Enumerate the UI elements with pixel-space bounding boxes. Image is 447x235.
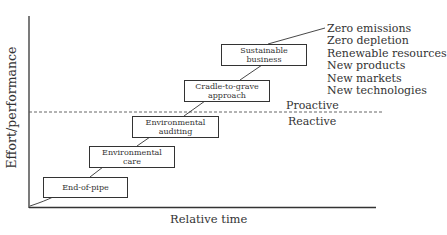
connector-care-auditing bbox=[137, 137, 150, 146]
stage-label: Sustainable business bbox=[239, 46, 289, 65]
reactive-label: Reactive bbox=[288, 115, 336, 128]
outcome-item: New products bbox=[327, 60, 447, 72]
stage-label: End-of-pipe bbox=[62, 183, 109, 193]
connector-endofpipe-care bbox=[90, 167, 103, 177]
proactive-label: Proactive bbox=[286, 99, 339, 112]
connector-origin-endofpipe bbox=[30, 197, 53, 206]
stage-label: Environmental care bbox=[102, 148, 162, 167]
connector-sustainable-outcomes bbox=[268, 28, 325, 44]
stage-label: Environmental auditing bbox=[146, 118, 206, 137]
stage-box-sustainable-business: Sustainable business bbox=[221, 44, 307, 66]
stage-box-end-of-pipe: End-of-pipe bbox=[43, 177, 128, 198]
outcomes-list: Zero emissions Zero depletion Renewable … bbox=[327, 23, 447, 97]
stage-box-cradle-to-grave: Cradle-to-grave approach bbox=[184, 80, 270, 102]
stage-label: Cradle-to-grave approach bbox=[194, 82, 260, 101]
outcome-item: New technologies bbox=[327, 85, 447, 97]
outcome-item: Zero depletion bbox=[327, 35, 447, 47]
connector-auditing-cradle bbox=[184, 101, 205, 116]
stage-box-environmental-care: Environmental care bbox=[89, 146, 175, 168]
x-axis-label: Relative time bbox=[170, 212, 247, 226]
stage-box-environmental-auditing: Environmental auditing bbox=[132, 116, 219, 138]
connector-cradle-sustainable bbox=[240, 65, 262, 80]
y-axis-label: Effort/performance bbox=[4, 59, 19, 169]
